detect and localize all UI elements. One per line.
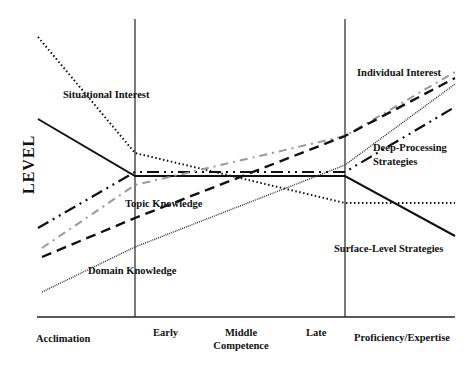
- label-situational-interest: Situational Interest: [63, 89, 149, 101]
- stage-early: Early: [153, 326, 178, 339]
- stage-middle: Middle: [211, 326, 271, 339]
- line-domain-knowledge: [42, 84, 455, 292]
- label-deep-processing: Deep-Processing: [373, 142, 447, 154]
- diagram-canvas: [0, 0, 472, 369]
- stage-acclimation: Acclimation: [36, 332, 90, 345]
- label-individual-interest: Individual Interest: [357, 67, 441, 79]
- y-axis-label: LEVEL: [20, 144, 38, 194]
- label-domain-knowledge: Domain Knowledge: [88, 265, 176, 277]
- label-deep-processing-strategies: Strategies: [373, 156, 417, 168]
- label-topic-knowledge: Topic Knowledge: [125, 198, 203, 210]
- line-situational-interest: [38, 37, 455, 203]
- stage-proficiency-expertise: Proficiency/Expertise: [354, 331, 450, 344]
- label-surface-level-strategies: Surface-Level Strategies: [334, 243, 443, 255]
- stage-middle-competence: Middle Competence: [211, 326, 271, 352]
- stage-late: Late: [306, 326, 326, 339]
- stage-competence: Competence: [211, 339, 271, 352]
- line-surface-level-strategies: [38, 119, 455, 236]
